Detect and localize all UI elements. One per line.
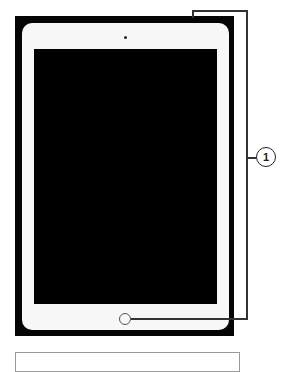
callout-line-home (131, 318, 248, 320)
callout-line-top-stub (192, 10, 194, 18)
callout-badge-1: 1 (256, 147, 276, 167)
callout-number: 1 (263, 151, 269, 163)
caption-box (15, 352, 240, 372)
callout-line-top-horizontal (192, 10, 247, 12)
front-camera-icon (124, 36, 127, 39)
callout-line-vertical (246, 10, 248, 320)
home-button-icon (119, 313, 131, 325)
callout-line-badge (246, 157, 256, 159)
device-screen (34, 49, 217, 304)
